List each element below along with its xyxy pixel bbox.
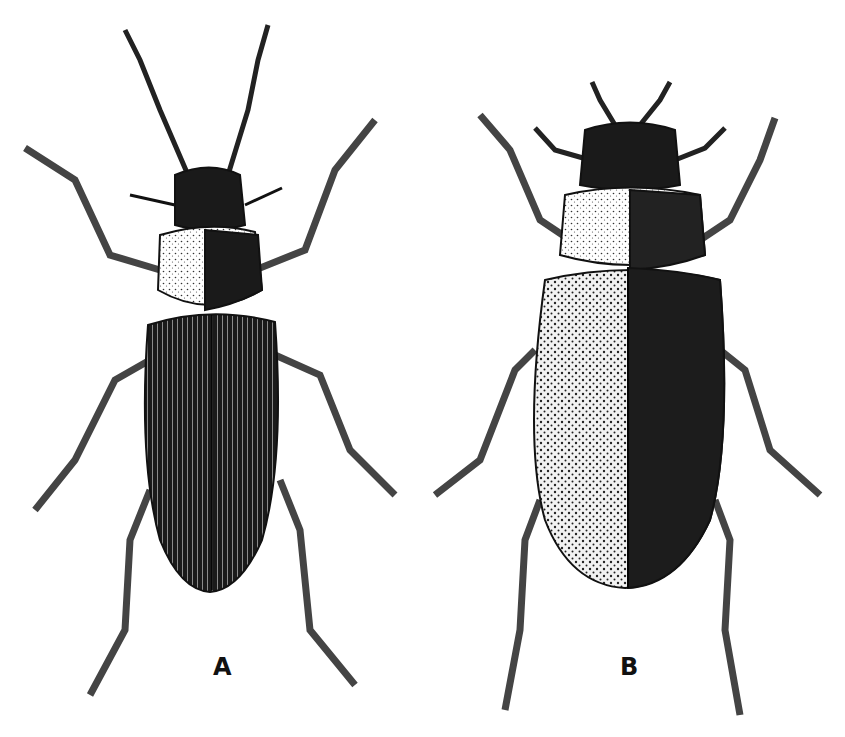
beetle-a [25, 25, 395, 695]
panel-label-a: A [213, 653, 232, 681]
beetle-illustration [0, 0, 845, 737]
panel-label-b: B [620, 653, 638, 681]
beetle-b [435, 82, 820, 715]
